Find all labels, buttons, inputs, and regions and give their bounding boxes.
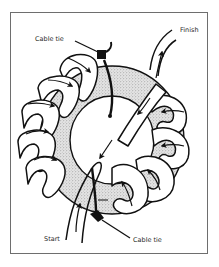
arrow-icon	[76, 204, 80, 232]
arrow-icon	[156, 52, 162, 78]
label-finish: Finish	[180, 27, 199, 34]
label-cable-tie-top: Cable tie	[35, 36, 64, 43]
toroid-winding-diagram	[0, 0, 219, 267]
finish-lead	[150, 30, 176, 76]
label-cable-tie-bottom: Cable tie	[133, 237, 162, 244]
label-start: Start	[44, 236, 60, 243]
